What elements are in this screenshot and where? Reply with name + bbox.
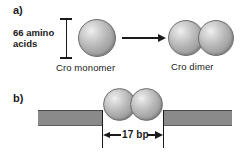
dna-bar-right-segment <box>163 110 232 126</box>
footprint-length-label: 17 bp <box>122 129 149 140</box>
measurement-arrow-head-right <box>155 131 163 139</box>
panel-a-label: a) <box>13 4 23 16</box>
size-bracket-stem <box>66 18 68 58</box>
panel-b-label: b) <box>13 92 23 104</box>
amino-acid-count-label-line2: acids <box>13 39 37 50</box>
size-bracket-bottom-cap <box>60 57 72 59</box>
measurement-shaft-left <box>109 134 121 136</box>
footprint-tick-left <box>102 110 103 148</box>
cro-dimer-caption: Cro dimer <box>171 61 214 72</box>
cro-monomer-caption: Cro monomer <box>56 62 115 73</box>
reaction-arrow-shaft <box>122 37 160 39</box>
bound-dimer-sphere-right <box>130 88 163 121</box>
amino-acid-count-label-line1: 66 amino <box>13 28 54 39</box>
cro-dimer-sphere-right <box>198 20 234 56</box>
figure-cro-protein-dna-binding: a) 66 amino acids Cro monomer Cro dimer … <box>0 0 247 160</box>
footprint-tick-right <box>163 110 164 148</box>
dna-bar-left-segment <box>38 110 102 126</box>
reaction-arrow-head <box>158 34 166 42</box>
cro-monomer-sphere <box>78 19 116 57</box>
